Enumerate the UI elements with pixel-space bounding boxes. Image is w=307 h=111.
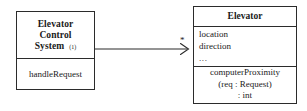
attribute-item: location <box>199 28 228 40</box>
class-attributes-compartment-elevator: location direction ... <box>194 26 296 66</box>
class-name-compartment-elevator-control-system: Elevator Control System (1) <box>17 12 94 58</box>
class-box-elevator[interactable]: Elevator location direction ... computer… <box>193 6 297 104</box>
class-name-line: System <box>35 41 65 52</box>
operation-item: computerProximity <box>210 67 280 79</box>
class-name-line: Elevator <box>228 11 263 22</box>
class-operations-compartment-elevator: computerProximity (req : Request) : int <box>194 66 296 103</box>
class-box-elevator-control-system[interactable]: Elevator Control System (1) handleReques… <box>16 11 95 90</box>
operation-return-type-line: : int <box>238 90 252 102</box>
multiplicity-label-target: * <box>180 36 185 45</box>
class-name-line: Control <box>39 30 71 41</box>
instance-count-tag: (1) <box>69 44 76 51</box>
attribute-item-ellipsis: ... <box>199 52 208 64</box>
class-name-line: Elevator <box>38 19 74 30</box>
operation-item: handleRequest <box>29 69 82 80</box>
class-name-line-with-instance-tag: System (1) <box>35 41 77 52</box>
class-name-compartment-elevator: Elevator <box>194 7 296 26</box>
uml-class-diagram-canvas: Elevator Control System (1) handleReques… <box>0 0 307 111</box>
class-operations-compartment-elevator-control-system: handleRequest <box>17 58 94 89</box>
operation-parameter-line: (req : Request) <box>218 79 271 91</box>
